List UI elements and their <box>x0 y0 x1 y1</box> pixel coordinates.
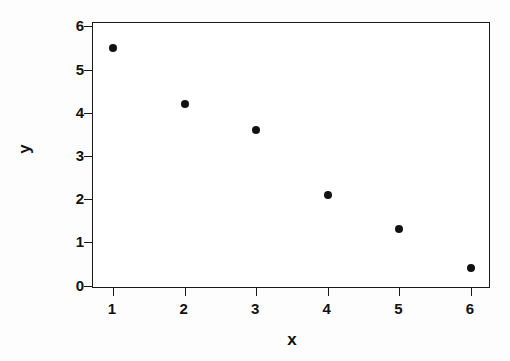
data-point <box>395 225 403 233</box>
data-points-layer <box>93 23 489 287</box>
x-tick-mark <box>328 287 329 296</box>
y-tick-mark <box>84 26 93 27</box>
y-tick-mark <box>84 242 93 243</box>
y-tick-mark <box>84 113 93 114</box>
scatter-plot-figure: 0123456 123456 y x <box>0 0 510 361</box>
y-tick-label: 3 <box>60 147 84 164</box>
x-tick-label: 6 <box>450 300 490 317</box>
plot-area <box>92 22 490 288</box>
x-tick-mark <box>113 287 114 296</box>
x-tick-mark <box>399 287 400 296</box>
y-tick-label: 2 <box>60 190 84 207</box>
data-point <box>324 191 332 199</box>
y-axis-tick-labels: 0123456 <box>52 22 84 288</box>
y-tick-label: 5 <box>60 60 84 77</box>
x-tick-mark <box>185 287 186 296</box>
x-tick-mark <box>471 287 472 296</box>
x-axis-title: x <box>0 330 510 350</box>
y-tick-label: 1 <box>60 233 84 250</box>
y-tick-mark <box>84 199 93 200</box>
x-tick-label: 4 <box>307 300 347 317</box>
x-tick-mark <box>256 287 257 296</box>
y-tick-label: 4 <box>60 103 84 120</box>
y-axis-title: y <box>15 144 35 153</box>
data-point <box>181 100 189 108</box>
data-point <box>467 264 475 272</box>
y-tick-label: 0 <box>60 276 84 293</box>
x-axis-tick-labels: 123456 <box>92 300 490 324</box>
data-point <box>109 44 117 52</box>
x-tick-label: 2 <box>164 300 204 317</box>
data-point <box>252 126 260 134</box>
x-tick-label: 3 <box>235 300 275 317</box>
y-tick-label: 6 <box>60 17 84 34</box>
y-tick-mark <box>84 70 93 71</box>
x-tick-label: 1 <box>92 300 132 317</box>
y-tick-mark <box>84 286 93 287</box>
y-tick-mark <box>84 156 93 157</box>
x-tick-label: 5 <box>378 300 418 317</box>
